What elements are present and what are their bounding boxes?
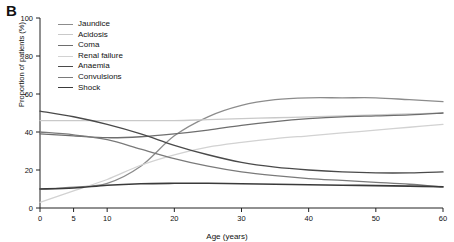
x-tick-label: 10 [103,214,111,223]
legend-item-shock: Shock [58,83,123,94]
legend-item-anaemia: Anaemia [58,61,123,72]
y-tick-label: 80 [25,52,33,61]
x-tick-label: 40 [304,214,312,223]
x-tick-label: 50 [372,214,380,223]
panel-label: B [6,2,17,19]
y-tick-label: 60 [25,90,33,99]
legend-label: Acidosis [78,30,108,41]
y-tick-label: 0 [29,204,33,213]
x-axis-label: Age (years) [0,232,454,241]
legend-item-acidosis: Acidosis [58,30,123,41]
x-tick-label: 60 [439,214,447,223]
x-tick-label: 30 [237,214,245,223]
legend-swatch-icon [58,45,73,46]
legend-swatch-icon [58,66,73,67]
legend-swatch-icon [58,77,73,78]
x-tick-label: 5 [71,214,75,223]
series-line-acidosis [40,113,443,121]
y-tick-label: 100 [20,14,33,23]
legend-label: Coma [78,40,99,51]
series-line-convulsions [40,132,443,187]
legend-swatch-icon [58,56,73,57]
legend-item-convulsions: Convulsions [58,72,123,83]
series-line-shock [40,183,443,189]
series-line-jaundice [40,98,443,189]
y-tick-label: 40 [25,128,33,137]
y-tick-label: 20 [25,166,33,175]
legend-swatch-icon [58,34,73,35]
legend-item-coma: Coma [58,40,123,51]
chart-legend: JaundiceAcidosisComaRenal failureAnaemia… [58,19,123,93]
legend-label: Shock [78,83,100,94]
x-tick-label: 0 [38,214,42,223]
series-line-coma [40,113,443,138]
x-tick-label: 20 [170,214,178,223]
legend-label: Anaemia [78,61,110,72]
legend-label: Jaundice [78,19,110,30]
series-line-renal-failure [40,124,443,202]
legend-item-jaundice: Jaundice [58,19,123,30]
legend-label: Renal failure [78,51,123,62]
legend-swatch-icon [58,87,73,88]
legend-item-renal-failure: Renal failure [58,51,123,62]
legend-label: Convulsions [78,72,122,83]
legend-swatch-icon [58,24,73,25]
